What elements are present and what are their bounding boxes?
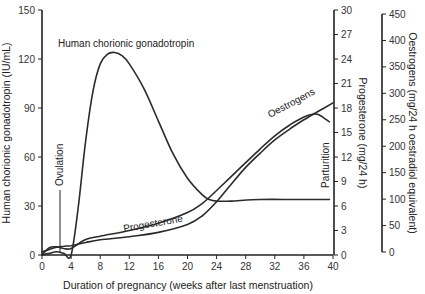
progesterone-tick-label: 12 bbox=[341, 152, 353, 163]
x-tick-label: 8 bbox=[97, 261, 103, 272]
oestrogen-tick-label: 250 bbox=[389, 114, 406, 125]
x-tick-label: 16 bbox=[153, 261, 165, 272]
left-y-tick-label: 60 bbox=[24, 152, 36, 163]
oestrogen-tick-label: 50 bbox=[389, 220, 401, 231]
progesterone-tick-label: 27 bbox=[341, 29, 353, 40]
progesterone-tick-label: 15 bbox=[341, 127, 353, 138]
progesterone-tick-label: 6 bbox=[341, 201, 347, 212]
oestrogen-tick-label: 300 bbox=[389, 88, 406, 99]
progesterone-tick-label: 0 bbox=[341, 250, 347, 261]
progesterone-tick-label: 9 bbox=[341, 176, 347, 187]
left-y-tick-label: 90 bbox=[24, 103, 36, 114]
left-y-tick-label: 120 bbox=[18, 54, 35, 65]
x-axis-title: Duration of pregnancy (weeks after last … bbox=[63, 279, 313, 291]
oestrogen-tick-label: 150 bbox=[389, 167, 406, 178]
x-tick-label: 0 bbox=[39, 261, 45, 272]
progesterone-tick-label: 18 bbox=[341, 103, 353, 114]
progesterone-curve bbox=[42, 114, 329, 255]
parturition-label: Parturition bbox=[320, 142, 331, 188]
left-y-tick-label: 150 bbox=[18, 5, 35, 16]
left-y-tick-label: 0 bbox=[29, 250, 35, 261]
oestrogen-tick-label: 0 bbox=[389, 247, 395, 258]
x-tick-label: 4 bbox=[68, 261, 74, 272]
x-tick-label: 36 bbox=[298, 261, 310, 272]
human-chorionic-gonadotropin-curve bbox=[42, 52, 329, 258]
x-tick-label: 20 bbox=[182, 261, 194, 272]
oestrogen-tick-label: 200 bbox=[389, 141, 406, 152]
progesterone-axis-title: Progesterone (mg/24 h) bbox=[357, 78, 369, 189]
oestrogen-tick-label: 450 bbox=[389, 9, 406, 20]
left-y-tick-label: 30 bbox=[24, 201, 36, 212]
x-tick-label: 12 bbox=[124, 261, 136, 272]
oestrogen-axis-title: Oestrogens (mg/24 h oestradiol equivalen… bbox=[407, 32, 419, 233]
oestrogen-tick-label: 100 bbox=[389, 194, 406, 205]
progesterone-tick-label: 30 bbox=[341, 5, 353, 16]
oestrogen-tick-label: 350 bbox=[389, 61, 406, 72]
ovulation-label: Ovulation bbox=[54, 144, 65, 186]
x-tick-label: 32 bbox=[269, 261, 281, 272]
hormone-chart: 0306090120150048121620242832364003691215… bbox=[0, 0, 425, 294]
curves bbox=[42, 52, 333, 258]
left-y-axis-title: Human chorionic gonadotropin (IU/mL) bbox=[0, 43, 12, 224]
progesterone-tick-label: 3 bbox=[341, 225, 347, 236]
hcg-series-label: Human chorionic gonadotropin bbox=[58, 38, 194, 49]
x-tick-label: 40 bbox=[327, 261, 339, 272]
progesterone-tick-label: 21 bbox=[341, 78, 353, 89]
progesterone-series-label: Progesterone bbox=[122, 213, 183, 234]
x-tick-label: 28 bbox=[240, 261, 252, 272]
x-tick-label: 24 bbox=[211, 261, 223, 272]
oestrogen-tick-label: 400 bbox=[389, 35, 406, 46]
progesterone-tick-label: 24 bbox=[341, 54, 353, 65]
